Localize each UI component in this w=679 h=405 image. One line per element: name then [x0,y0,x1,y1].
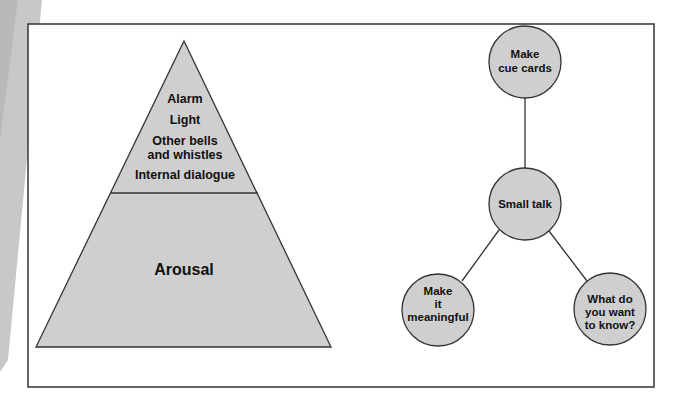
diagram-canvas: Alarm Light Other bells and whistles Int… [0,0,679,405]
pyramid-label-light: Light [170,113,201,127]
node-bottom-right-line-1: What do [587,293,632,305]
mind-map-node-bottom-right: What do you want to know? [574,273,646,345]
pyramid-label-internal-dialogue: Internal dialogue [135,168,235,182]
pyramid-label-other-bells: Other bells [152,134,217,148]
mind-map-node-bottom-left: Make it meaningful [402,274,474,346]
mind-map-node-top: Make cue cards [489,26,561,98]
pyramid-label-alarm: Alarm [167,92,202,106]
node-bottom-left-line-3: meaningful [407,311,468,323]
mind-map-node-center: Small talk [489,168,561,240]
node-bottom-left-line-2: it [434,298,441,310]
pyramid-label-arousal: Arousal [154,261,214,278]
node-bottom-right-line-2: you want [585,306,635,318]
node-bottom-right-line-3: to know? [585,319,635,331]
node-center-line-1: Small talk [498,198,552,210]
pyramid-label-and-whistles: and whistles [147,148,222,162]
node-top-line-1: Make [511,48,540,60]
node-top-line-2: cue cards [498,62,552,74]
node-bottom-left-line-1: Make [424,285,453,297]
